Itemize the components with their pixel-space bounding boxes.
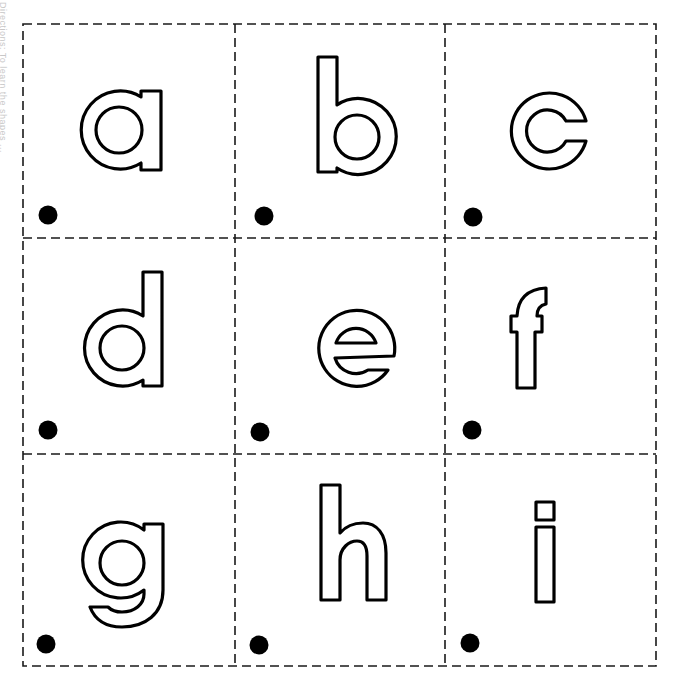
letter-card-c[interactable]: c [464,93,587,227]
letter-card-a[interactable]: a [39,91,162,225]
dot-marker [463,421,482,440]
dot-marker [39,206,58,225]
letter-g-outline [83,522,163,627]
letter-h-outline [321,485,386,600]
letter-a-outline [81,91,161,170]
dot-marker [255,207,274,226]
dot-marker [37,635,56,654]
letter-card-f[interactable]: f [463,288,547,440]
letter-i-dot-outline [536,502,554,520]
dot-marker [251,423,270,442]
letter-c-outline [511,93,586,169]
dot-marker [464,208,483,227]
letter-card-d[interactable]: d [39,272,163,440]
letter-d-outline [85,272,162,386]
dot-marker [250,636,269,655]
letter-b-outline [318,57,396,175]
letter-f-outline [511,288,546,388]
letter-card-e[interactable]: e [251,310,395,441]
letter-card-i[interactable]: i [461,502,555,653]
dot-marker [39,421,58,440]
letter-card-sheet: a b c d e f g h [0,0,676,686]
letter-card-h[interactable]: h [250,485,387,655]
letter-e-outline [319,310,395,386]
dot-marker [461,634,480,653]
letter-i-stem-outline [536,527,554,602]
letter-card-g[interactable]: g [37,522,164,654]
letter-card-b[interactable]: b [255,57,397,226]
